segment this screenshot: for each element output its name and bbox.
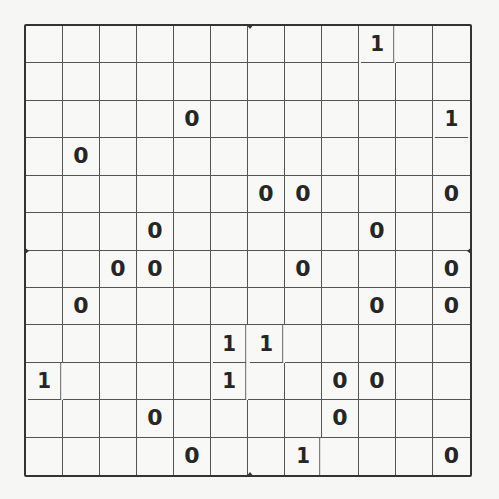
grid-cell-r7-c3[interactable] [137, 288, 174, 325]
grid-cell-r8-c9[interactable] [359, 325, 396, 362]
grid-cell-r5-c10[interactable] [396, 213, 433, 250]
grid-cell-r9-c11[interactable] [433, 363, 470, 400]
grid-cell-r9-c6[interactable] [248, 363, 285, 400]
grid-cell-r7-c10[interactable] [396, 288, 433, 325]
grid-cell-r10-c8[interactable]: 0 [322, 400, 359, 437]
grid-cell-r2-c7[interactable] [285, 101, 322, 138]
grid-cell-r6-c10[interactable] [396, 251, 433, 288]
grid-cell-r9-c9[interactable]: 0 [359, 363, 396, 400]
grid-cell-r10-c9[interactable] [359, 400, 396, 437]
grid-cell-r0-c11[interactable] [433, 26, 470, 63]
grid-cell-r0-c0[interactable] [26, 26, 63, 63]
grid-cell-r4-c5[interactable] [211, 176, 248, 213]
grid-cell-r0-c8[interactable] [322, 26, 359, 63]
grid-cell-r10-c6[interactable] [248, 400, 285, 437]
grid-cell-r1-c9[interactable] [359, 63, 396, 100]
grid-cell-r6-c11[interactable]: 0 [433, 251, 470, 288]
grid-cell-r6-c4[interactable] [174, 251, 211, 288]
grid-cell-r8-c3[interactable] [137, 325, 174, 362]
grid-cell-r11-c5[interactable] [211, 438, 248, 475]
grid-cell-r9-c5[interactable]: 1 [213, 363, 246, 400]
grid-cell-r2-c4[interactable]: 0 [174, 101, 211, 138]
grid-cell-r2-c6[interactable] [248, 101, 285, 138]
grid-cell-r10-c11[interactable] [433, 400, 470, 437]
grid-cell-r1-c4[interactable] [174, 63, 211, 100]
grid-cell-r8-c7[interactable] [285, 325, 322, 362]
grid-cell-r3-c6[interactable] [248, 138, 285, 175]
grid-cell-r9-c2[interactable] [100, 363, 137, 400]
grid-cell-r10-c5[interactable] [211, 400, 248, 437]
grid-cell-r0-c7[interactable] [285, 26, 322, 63]
grid-cell-r0-c6[interactable] [248, 26, 285, 63]
grid-cell-r0-c3[interactable] [137, 26, 174, 63]
grid-cell-r4-c4[interactable] [174, 176, 211, 213]
grid-cell-r7-c8[interactable] [322, 288, 359, 325]
grid-cell-r1-c6[interactable] [248, 63, 285, 100]
grid-cell-r9-c4[interactable] [174, 363, 211, 400]
grid-cell-r2-c1[interactable] [63, 101, 100, 138]
grid-cell-r5-c6[interactable] [248, 213, 285, 250]
grid-cell-r4-c6[interactable]: 0 [248, 176, 285, 213]
grid-cell-r0-c5[interactable] [211, 26, 248, 63]
grid-cell-r0-c9[interactable]: 1 [361, 26, 394, 63]
grid-cell-r4-c0[interactable] [26, 176, 63, 213]
grid-cell-r1-c11[interactable] [433, 63, 470, 100]
grid-cell-r10-c1[interactable] [63, 400, 100, 437]
grid-cell-r11-c1[interactable] [63, 438, 100, 475]
grid-cell-r8-c11[interactable] [433, 325, 470, 362]
grid-cell-r8-c8[interactable] [322, 325, 359, 362]
grid-cell-r6-c7[interactable]: 0 [285, 251, 322, 288]
grid-cell-r7-c11[interactable]: 0 [433, 288, 470, 325]
grid-cell-r7-c5[interactable] [211, 288, 248, 325]
grid-cell-r4-c10[interactable] [396, 176, 433, 213]
grid-cell-r1-c1[interactable] [63, 63, 100, 100]
grid-cell-r1-c2[interactable] [100, 63, 137, 100]
grid-cell-r3-c11[interactable] [433, 138, 470, 175]
grid-cell-r10-c4[interactable] [174, 400, 211, 437]
grid-cell-r11-c11[interactable]: 0 [433, 438, 470, 475]
grid-cell-r7-c9[interactable]: 0 [359, 288, 396, 325]
grid-cell-r9-c10[interactable] [396, 363, 433, 400]
grid-cell-r4-c1[interactable] [63, 176, 100, 213]
grid-cell-r6-c8[interactable] [322, 251, 359, 288]
grid-cell-r0-c1[interactable] [63, 26, 100, 63]
grid-cell-r7-c7[interactable] [285, 288, 322, 325]
grid-cell-r6-c5[interactable] [211, 251, 248, 288]
grid-cell-r1-c7[interactable] [285, 63, 322, 100]
grid-cell-r2-c3[interactable] [137, 101, 174, 138]
grid-cell-r5-c1[interactable] [63, 213, 100, 250]
grid-cell-r9-c0[interactable]: 1 [28, 363, 61, 400]
grid-cell-r11-c3[interactable] [137, 438, 174, 475]
grid-cell-r7-c0[interactable] [26, 288, 63, 325]
grid-cell-r9-c7[interactable] [285, 363, 322, 400]
grid-cell-r6-c2[interactable]: 0 [100, 251, 137, 288]
grid-cell-r3-c0[interactable] [26, 138, 63, 175]
grid-cell-r2-c8[interactable] [322, 101, 359, 138]
grid-cell-r4-c8[interactable] [322, 176, 359, 213]
grid-cell-r3-c3[interactable] [137, 138, 174, 175]
grid-cell-r10-c7[interactable] [285, 400, 322, 437]
grid-cell-r8-c6[interactable]: 1 [250, 325, 283, 362]
grid-cell-r2-c0[interactable] [26, 101, 63, 138]
grid-cell-r6-c3[interactable]: 0 [137, 251, 174, 288]
grid-cell-r11-c2[interactable] [100, 438, 137, 475]
grid-cell-r9-c1[interactable] [63, 363, 100, 400]
grid-cell-r5-c2[interactable] [100, 213, 137, 250]
grid-cell-r8-c5[interactable]: 1 [213, 325, 246, 362]
grid-cell-r5-c0[interactable] [26, 213, 63, 250]
grid-cell-r10-c10[interactable] [396, 400, 433, 437]
grid-cell-r5-c4[interactable] [174, 213, 211, 250]
grid-cell-r1-c5[interactable] [211, 63, 248, 100]
grid-cell-r2-c2[interactable] [100, 101, 137, 138]
grid-cell-r1-c0[interactable] [26, 63, 63, 100]
grid-cell-r4-c9[interactable] [359, 176, 396, 213]
grid-cell-r11-c4[interactable]: 0 [174, 438, 211, 475]
grid-cell-r11-c8[interactable] [322, 438, 359, 475]
grid-cell-r4-c7[interactable]: 0 [285, 176, 322, 213]
grid-cell-r11-c9[interactable] [359, 438, 396, 475]
grid-cell-r5-c11[interactable] [433, 213, 470, 250]
grid-cell-r2-c9[interactable] [359, 101, 396, 138]
grid-cell-r3-c9[interactable] [359, 138, 396, 175]
grid-cell-r9-c3[interactable] [137, 363, 174, 400]
grid-cell-r2-c11[interactable]: 1 [435, 101, 468, 138]
